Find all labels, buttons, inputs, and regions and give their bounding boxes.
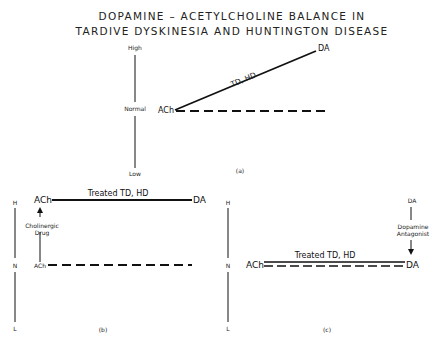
arrow-label-line-2: Drug xyxy=(35,229,50,237)
axis-label-low: L xyxy=(226,325,230,332)
axis-label-normal: Normal xyxy=(124,105,146,112)
panel-c: H N L ACh DA Treated TD, HD DA Dopamine … xyxy=(226,197,430,333)
axis-label-normal: N xyxy=(226,262,231,269)
ach-top-label: ACh xyxy=(34,195,52,205)
axis-label-high: H xyxy=(226,199,231,206)
ach-label: ACh xyxy=(158,106,174,115)
panel-caption: (a) xyxy=(236,167,244,174)
panel-caption: (c) xyxy=(323,326,331,333)
arrow-label-line-2: Antagonist xyxy=(397,230,430,238)
axis-label-high: H xyxy=(13,199,18,206)
da-label: DA xyxy=(318,44,330,53)
panel-b: H N L ACh DA Treated TD, HD Cholinergic … xyxy=(13,189,207,333)
title-line-2: TARDIVE DYSKINESIA AND HUNTINGTON DISEAS… xyxy=(75,25,389,37)
axis-label-high: High xyxy=(128,44,142,52)
da-bottom-label: DA xyxy=(406,260,420,270)
axis-label-low: Low xyxy=(129,170,141,177)
diagram-canvas: DOPAMINE – ACETYLCHOLINE BALANCE IN TARD… xyxy=(0,0,439,344)
axis-label-normal: N xyxy=(13,262,18,269)
treated-line-label: Treated TD, HD xyxy=(294,251,356,260)
da-label: DA xyxy=(193,195,207,205)
ach-bottom-label: ACh xyxy=(34,262,46,269)
treated-line-label: Treated TD, HD xyxy=(87,189,149,198)
panel-a: High Normal Low ACh DA TD, HD (a) xyxy=(124,44,330,177)
imbalance-line-label: TD, HD xyxy=(228,70,257,89)
ach-label: ACh xyxy=(246,260,264,270)
diagram-svg: DOPAMINE – ACETYLCHOLINE BALANCE IN TARD… xyxy=(0,0,439,344)
axis-label-low: L xyxy=(13,325,17,332)
panel-caption: (b) xyxy=(99,326,108,333)
da-top-label: DA xyxy=(408,197,418,204)
title-line-1: DOPAMINE – ACETYLCHOLINE BALANCE IN xyxy=(99,10,366,22)
